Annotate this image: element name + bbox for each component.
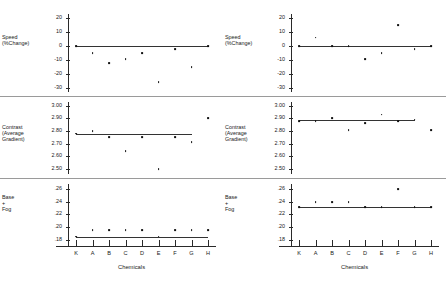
panel-contrast-title-line3: Gradient) — [2, 136, 24, 142]
y-tick-mark — [289, 156, 293, 157]
y-tick-mark — [66, 214, 70, 215]
x-tick-mark — [299, 240, 300, 246]
y-tick-mark — [66, 60, 70, 61]
data-point — [430, 129, 432, 131]
y-tick-label: 2.70 — [52, 141, 63, 146]
data-point — [141, 229, 143, 231]
data-point — [108, 62, 110, 64]
y-tick-mark — [289, 88, 293, 89]
y-tick-label: .18 — [278, 237, 286, 242]
y-tick-mark — [66, 227, 70, 228]
y-tick-mark — [66, 169, 70, 170]
y-tick-mark — [289, 240, 293, 241]
y-tick-label: .24 — [278, 199, 286, 204]
data-point — [430, 207, 432, 209]
data-point — [207, 118, 209, 120]
x-axis-title-left: Chemicals — [0, 264, 223, 270]
y-tick-mark — [289, 144, 293, 145]
data-point — [331, 118, 333, 120]
data-point — [364, 123, 366, 125]
y-tick-mark — [289, 214, 293, 215]
y-tick-mark — [66, 156, 70, 157]
data-point — [191, 229, 193, 231]
x-tick-mark — [398, 240, 399, 246]
data-point — [92, 229, 94, 231]
panel-contrast: Contrast (Average Gradient) 3.002.902.80… — [223, 96, 446, 178]
x-tick-mark — [431, 240, 432, 246]
y-tick-label: 2.70 — [275, 141, 286, 146]
y-tick-label: 0 — [282, 43, 285, 48]
y-tick-label: 20 — [279, 15, 285, 20]
y-tick-mark — [66, 118, 70, 119]
data-point — [108, 229, 110, 231]
x-tick-label: E — [157, 250, 161, 256]
plot-area-base — [68, 184, 209, 242]
x-tick-label: H — [429, 250, 433, 256]
x-tick-mark — [415, 240, 416, 246]
y-tick-mark — [289, 60, 293, 61]
multi-panel-scatter-figure: Speed (%Change) 20100-10-20-30 Contrast … — [0, 0, 446, 285]
panel-contrast-title-line3: Gradient) — [225, 136, 247, 142]
data-point — [125, 229, 127, 231]
data-point — [315, 201, 317, 203]
data-point — [381, 114, 383, 116]
panel-speed: Speed (%Change) 20100-10-20-30 — [223, 8, 446, 96]
y-tick-mark — [66, 202, 70, 203]
panel-speed-title-line2: (%Change) — [225, 40, 252, 46]
data-point — [191, 66, 193, 68]
y-tick-mark — [289, 106, 293, 107]
y-tick-mark — [289, 18, 293, 19]
x-tick-label: C — [123, 250, 127, 256]
x-tick-mark — [159, 240, 160, 246]
data-point — [397, 120, 399, 122]
plot-area-contrast — [68, 102, 209, 174]
data-point — [348, 201, 350, 203]
y-tick-label: 20 — [56, 15, 62, 20]
plot-area-speed — [68, 14, 209, 92]
x-tick-label: A — [91, 250, 95, 256]
panel-base-title: Base + Fog — [2, 194, 14, 213]
panel-contrast-title: Contrast (Average Gradient) — [225, 124, 247, 143]
x-tick-label: E — [380, 250, 384, 256]
y-tick-label: .22 — [278, 212, 286, 217]
panel-contrast-title: Contrast (Average Gradient) — [2, 124, 24, 143]
x-tick-mark — [365, 240, 366, 246]
panel-speed: Speed (%Change) 20100-10-20-30 — [0, 8, 223, 96]
x-axis-title-right-text: Chemicals — [301, 264, 368, 270]
data-point — [298, 120, 300, 122]
data-point — [381, 52, 383, 54]
reference-line — [76, 134, 192, 135]
x-tick-mark — [192, 240, 193, 246]
data-point — [414, 119, 416, 121]
panel-base: Base + Fog .26.24.22.20.18 — [223, 178, 446, 246]
data-point — [174, 48, 176, 50]
y-tick-label: 2.50 — [275, 166, 286, 171]
y-tick-mark — [66, 88, 70, 89]
data-point — [397, 24, 399, 26]
y-tick-mark — [289, 32, 293, 33]
x-tick-mark — [175, 240, 176, 246]
y-tick-label: 3.00 — [52, 103, 63, 108]
y-tick-label: 0 — [59, 43, 62, 48]
data-point — [75, 133, 77, 135]
data-point — [430, 45, 432, 47]
data-point — [381, 207, 383, 209]
reference-line — [76, 46, 208, 47]
data-point — [298, 45, 300, 47]
data-point — [141, 52, 143, 54]
y-tick-mark — [66, 32, 70, 33]
data-point — [331, 45, 333, 47]
y-tick-label: -20 — [277, 71, 285, 76]
y-tick-mark — [66, 189, 70, 190]
data-point — [125, 58, 127, 60]
x-tick-label: K — [297, 250, 301, 256]
data-point — [298, 207, 300, 209]
plot-area-contrast — [291, 102, 432, 174]
x-tick-label: D — [140, 250, 144, 256]
panel-speed-title-line2: (%Change) — [2, 40, 29, 46]
data-point — [207, 45, 209, 47]
x-tick-label: B — [107, 250, 111, 256]
panel-speed-title: Speed (%Change) — [225, 34, 252, 46]
y-tick-mark — [289, 169, 293, 170]
y-tick-label: 2.60 — [275, 154, 286, 159]
